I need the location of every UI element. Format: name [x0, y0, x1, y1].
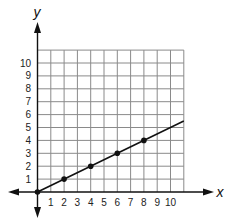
y-axis-down-arrow-icon — [34, 207, 41, 218]
y-axis-up-arrow-icon — [34, 22, 41, 33]
grid — [38, 50, 184, 192]
y-tick-label: 10 — [20, 58, 32, 69]
line-chart: 1234567891012345678910 x y — [0, 0, 231, 224]
y-tick-label: 5 — [25, 122, 31, 133]
data-point — [61, 176, 67, 182]
x-tick-label: 1 — [48, 197, 54, 208]
x-tick-label: 7 — [128, 197, 134, 208]
x-tick-label: 10 — [165, 197, 177, 208]
y-tick-label: 8 — [25, 83, 31, 94]
data-point — [141, 138, 147, 144]
x-axis-label: x — [216, 184, 225, 200]
x-tick-label: 8 — [141, 197, 147, 208]
tick-labels: 1234567891012345678910 — [20, 58, 177, 209]
x-tick-label: 6 — [115, 197, 121, 208]
data-series — [35, 121, 184, 195]
x-axis-right-arrow-icon — [203, 189, 214, 196]
x-tick-label: 3 — [75, 197, 81, 208]
data-point — [35, 189, 41, 195]
x-tick-label: 2 — [61, 197, 67, 208]
data-line — [38, 121, 184, 192]
x-tick-label: 4 — [88, 197, 94, 208]
y-tick-label: 4 — [25, 135, 31, 146]
y-tick-label: 7 — [25, 96, 31, 107]
data-point — [88, 163, 94, 169]
y-tick-label: 2 — [25, 161, 31, 172]
y-tick-label: 6 — [25, 109, 31, 120]
x-tick-label: 9 — [154, 197, 160, 208]
data-point — [115, 151, 121, 157]
x-tick-label: 5 — [101, 197, 107, 208]
y-tick-label: 1 — [25, 174, 31, 185]
axes — [8, 22, 214, 218]
x-axis-left-arrow-icon — [8, 189, 19, 196]
y-axis-label: y — [33, 4, 42, 20]
y-tick-label: 9 — [25, 70, 31, 81]
y-tick-label: 3 — [25, 148, 31, 159]
